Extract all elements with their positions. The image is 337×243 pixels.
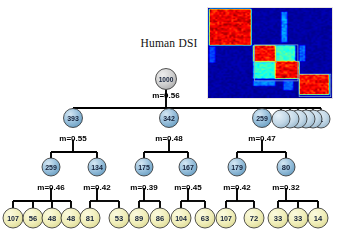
node-label: 167 (182, 164, 194, 171)
node-label: 89 (135, 214, 143, 223)
tree-node-n167[interactable]: 167 (179, 158, 197, 176)
node-label: 393 (67, 115, 79, 122)
tree-node-l56[interactable]: 56 (23, 208, 43, 228)
tree-node-n179[interactable]: 179 (228, 158, 246, 176)
tree-node-n393[interactable]: 393 (64, 109, 83, 128)
node-label: 33 (294, 214, 302, 223)
node-label: 63 (201, 214, 209, 223)
node-label: 342 (163, 115, 175, 122)
node-label: 48 (67, 214, 75, 223)
figure-root: Human DSI (0, 0, 337, 243)
dendrogram: 1393342259100025913417516717980107564848… (0, 0, 337, 243)
tree-node-n175[interactable]: 175 (135, 158, 153, 176)
tree-node-n80[interactable]: 80 (277, 158, 295, 176)
node-label: 56 (29, 214, 37, 223)
tree-node-n259b[interactable]: 259 (42, 158, 60, 176)
node-label: 53 (115, 214, 123, 223)
node-circle (272, 110, 290, 128)
modularity-label: m=0.45 (174, 183, 202, 192)
tree-node-l89[interactable]: 89 (129, 208, 149, 228)
node-label: 179 (231, 164, 243, 171)
node-label: 48 (48, 214, 56, 223)
modularity-label: m=0.48 (155, 134, 183, 143)
tree-node-l48a[interactable]: 48 (42, 208, 62, 228)
modularity-label: m=0.47 (248, 134, 276, 143)
modularity-label: m=0.42 (83, 183, 111, 192)
tree-node-l63[interactable]: 63 (195, 208, 215, 228)
node-label: 81 (86, 214, 95, 223)
modularity-label: m=0.55 (59, 134, 87, 143)
tree-node-l104[interactable]: 104 (171, 208, 191, 228)
node-label: 86 (156, 214, 164, 223)
modularity-label: m=0.32 (272, 183, 300, 192)
node-label: 259 (45, 164, 57, 171)
tree-node-l14[interactable]: 14 (308, 208, 328, 228)
node-label: 259 (256, 115, 268, 122)
modularity-label: m=0.46 (37, 183, 65, 192)
node-label: 134 (91, 164, 103, 171)
tree-node-l48b[interactable]: 48 (61, 208, 81, 228)
tree-node-l53[interactable]: 53 (109, 208, 129, 228)
tree-node-l33a[interactable]: 33 (268, 208, 288, 228)
tree-node-n134[interactable]: 134 (88, 158, 106, 176)
modularity-label: m=0.42 (223, 183, 251, 192)
tree-node-singleton1[interactable] (272, 110, 290, 128)
tree-node-l33b[interactable]: 33 (288, 208, 308, 228)
node-label: 1000 (159, 76, 174, 83)
tree-node-n259[interactable]: 259 (253, 109, 272, 128)
node-label: 80 (282, 163, 290, 172)
tree-node-l107a[interactable]: 107 (3, 208, 23, 228)
tree-node-root[interactable]: 1000 (156, 69, 177, 90)
node-label: 107 (220, 215, 232, 222)
node-label: 14 (314, 214, 323, 223)
modularity-labels: m=0.56m=0.55m=0.48m=0.47m=0.46m=0.42m=0.… (37, 91, 300, 192)
node-label: 104 (175, 215, 187, 222)
tree-node-n342[interactable]: 342 (160, 109, 179, 128)
tree-node-l107b[interactable]: 107 (216, 208, 236, 228)
node-label: 72 (250, 214, 258, 223)
node-label: 175 (138, 164, 150, 171)
tree-node-l72[interactable]: 72 (244, 208, 264, 228)
node-label: 107 (7, 215, 19, 222)
modularity-label: m=0.56 (152, 91, 180, 100)
node-label: 33 (274, 214, 282, 223)
tree-node-l81[interactable]: 81 (80, 208, 100, 228)
tree-node-l86[interactable]: 86 (150, 208, 170, 228)
modularity-label: m=0.39 (130, 183, 158, 192)
